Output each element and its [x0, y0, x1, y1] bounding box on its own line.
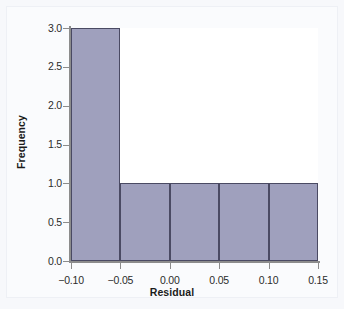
y-axis-line	[69, 26, 71, 263]
y-tick-mark	[63, 28, 69, 29]
y-tick-mark	[63, 222, 69, 223]
y-tick-mark	[63, 67, 69, 68]
plot-area	[71, 28, 318, 261]
y-tick-label: 2.5	[28, 60, 62, 72]
y-tick-mark	[63, 145, 69, 146]
histogram-figure: 0.0 0.5 1.0 1.5 2.0 2.5 3.0 −0.10 −0.05 …	[0, 0, 344, 309]
y-tick-label: 1.0	[28, 177, 62, 189]
x-tick-mark	[170, 263, 171, 269]
x-tick-mark	[219, 263, 220, 269]
y-tick-mark	[63, 106, 69, 107]
x-tick-label: −0.10	[58, 274, 84, 286]
x-tick-label: −0.05	[108, 274, 134, 286]
y-tick-label: 3.0	[28, 22, 62, 34]
y-tick-mark	[63, 261, 69, 262]
x-tick-mark	[269, 263, 270, 269]
y-tick-mark	[63, 183, 69, 184]
x-axis-line	[69, 261, 320, 263]
y-tick-label: 2.0	[28, 99, 62, 111]
histogram-bar	[71, 28, 120, 261]
x-tick-label: 0.10	[259, 274, 279, 286]
x-tick-mark	[120, 263, 121, 269]
histogram-bar	[269, 183, 318, 261]
histogram-bar	[170, 183, 219, 261]
y-tick-label: 1.5	[28, 138, 62, 150]
x-tick-label: 0.05	[209, 274, 229, 286]
y-tick-label: 0.0	[28, 255, 62, 267]
x-tick-label: 0.00	[160, 274, 180, 286]
histogram-bar	[120, 183, 169, 261]
x-tick-label: 0.15	[308, 274, 328, 286]
histogram-bar	[219, 183, 268, 261]
x-axis-title: Residual	[0, 286, 344, 298]
y-axis-title: Frequency	[15, 95, 27, 189]
x-tick-mark	[71, 263, 72, 269]
y-tick-label: 0.5	[28, 216, 62, 228]
x-tick-mark	[318, 263, 319, 269]
